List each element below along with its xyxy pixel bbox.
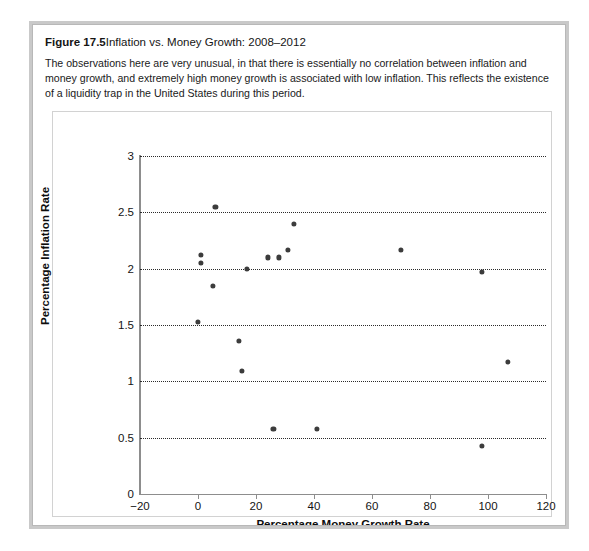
figure-title: Figure 17.5Inflation vs. Money Growth: 2… [45, 35, 550, 51]
x-tick-label: 120 [536, 500, 555, 512]
data-point [271, 426, 276, 431]
x-tick-label: 80 [424, 500, 437, 512]
data-point [506, 360, 511, 365]
data-point [480, 269, 485, 274]
data-point [277, 255, 282, 260]
data-point [314, 426, 319, 431]
figure-frame: Figure 17.5Inflation vs. Money Growth: 2… [29, 21, 569, 529]
gridline [140, 212, 546, 213]
data-point [198, 253, 203, 258]
gridline [140, 438, 546, 439]
y-axis-tick-labels: 00.511.522.53 [92, 156, 134, 494]
x-axis-tick-labels: −20020406080100120 [140, 500, 546, 516]
data-point [285, 247, 290, 252]
gridline [140, 325, 546, 326]
figure-caption: Figure 17.5Inflation vs. Money Growth: 2… [45, 35, 550, 101]
figure-description: The observations here are very unusual, … [45, 56, 550, 101]
x-axis-tick [198, 494, 199, 499]
figure-title-text: Inflation vs. Money Growth: 2008–2012 [106, 36, 306, 48]
scatter-chart: 00.511.522.53 −20020406080100120 Percent… [52, 111, 552, 517]
x-tick-label: 20 [250, 500, 263, 512]
gridline [140, 269, 546, 270]
plot-area [140, 156, 546, 494]
data-point [480, 443, 485, 448]
y-tick-label: 1 [128, 375, 134, 387]
y-axis-title: Percentage Inflation Rate [39, 187, 51, 325]
data-point [291, 221, 296, 226]
data-point [213, 204, 218, 209]
data-point [198, 260, 203, 265]
x-axis-tick [314, 494, 315, 499]
x-axis-tick [546, 494, 547, 499]
y-tick-label: 0.5 [118, 432, 134, 444]
y-tick-label: 2 [128, 263, 134, 275]
data-point [236, 338, 241, 343]
x-tick-label: 60 [366, 500, 379, 512]
data-point [195, 319, 200, 324]
x-axis-tick [372, 494, 373, 499]
x-axis-tick [430, 494, 431, 499]
data-point [265, 255, 270, 260]
y-tick-label: 2.5 [118, 206, 134, 218]
y-tick-label: 0 [128, 488, 134, 500]
x-tick-label: 0 [195, 500, 201, 512]
figure-number: Figure 17.5 [45, 36, 106, 48]
y-tick-label: 1.5 [118, 319, 134, 331]
x-tick-label: −20 [130, 500, 150, 512]
x-tick-label: 40 [308, 500, 321, 512]
data-point [398, 247, 403, 252]
x-tick-label: 100 [478, 500, 497, 512]
data-point [245, 266, 250, 271]
data-point [239, 369, 244, 374]
y-tick-label: 3 [128, 150, 134, 162]
x-axis-tick [488, 494, 489, 499]
figure-panel: Figure 17.5Inflation vs. Money Growth: 2… [32, 24, 566, 526]
x-axis-title: Percentage Money Growth Rate [140, 518, 546, 526]
gridline [140, 156, 546, 157]
data-point [210, 283, 215, 288]
gridline [140, 381, 546, 382]
x-axis-tick [256, 494, 257, 499]
